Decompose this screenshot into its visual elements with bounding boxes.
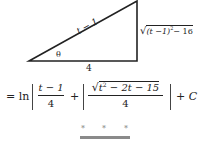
angle-label: θ <box>56 51 61 59</box>
integral-result-equation: = ln t − 1 4 + √t2 − 2t − 15 4 + C <box>0 80 204 120</box>
separator-star: * <box>81 125 85 133</box>
term1-numerator: t − 1 <box>38 83 64 93</box>
separator-bar <box>80 136 130 139</box>
term1-fraction-bar <box>38 95 64 96</box>
plus-sign: + <box>70 91 79 102</box>
term2-fraction-bar <box>88 95 163 96</box>
term1-denominator: 4 <box>38 99 64 109</box>
triangle-shape <box>0 0 204 75</box>
equals-ln: = ln <box>6 91 29 102</box>
term2-denominator: 4 <box>88 99 163 109</box>
term2-numerator: √t2 − 2t − 15 <box>88 82 163 93</box>
abs-bar-left <box>32 84 33 110</box>
separator-star: * <box>102 125 106 133</box>
plus-c: + C <box>176 91 197 102</box>
abs-bar-right <box>170 84 171 110</box>
abs-bar-inner-left <box>83 84 84 110</box>
right-triangle-diagram: t − 1 4 θ √(t −1)2− 16 <box>0 0 204 75</box>
adjacent-label: 4 <box>86 64 92 73</box>
sqrt-symbol: √ <box>92 81 99 94</box>
separator-star: * <box>124 125 128 133</box>
opposite-label: √(t −1)2− 16 <box>140 26 193 36</box>
